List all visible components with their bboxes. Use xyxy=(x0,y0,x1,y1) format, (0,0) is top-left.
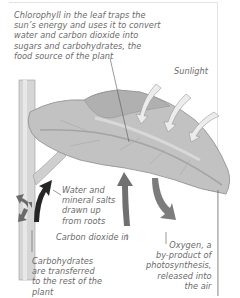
chlorophyll-label: Chlorophyll in the leaf traps the sun’s … xyxy=(14,10,161,61)
carbon-dioxide-label: Carbon dioxide in xyxy=(56,232,129,242)
water-label: Water and mineral salts drawn up from ro… xyxy=(62,185,115,226)
oxygen-label: Oxygen, a by-product of photosynthesis, … xyxy=(146,240,212,291)
water-arrow xyxy=(34,180,52,222)
oxygen-arrow xyxy=(152,178,176,220)
sunlight-label: Sunlight xyxy=(174,66,208,76)
carbohydrates-label: Carbohydrates are transferred to the res… xyxy=(32,256,102,297)
co2-arrow xyxy=(117,172,133,226)
